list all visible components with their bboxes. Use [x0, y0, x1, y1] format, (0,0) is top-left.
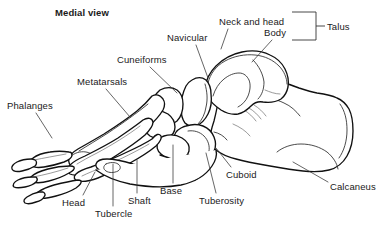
label-base: Base: [160, 185, 182, 196]
foot-skeleton-figure: Medial view Neck and head Body Talus Nav…: [0, 0, 383, 226]
label-navicular: Navicular: [167, 32, 208, 43]
phalanx-3-distal: [24, 192, 45, 204]
leader-phalanges: [36, 113, 52, 138]
phalanx-2-distal: [13, 177, 37, 188]
leader-neck-and-head: [221, 29, 228, 49]
talus-bracket: [292, 12, 325, 40]
leader-metatarsals: [106, 89, 130, 117]
label-tubercle: Tubercle: [95, 208, 132, 219]
label-head: Head: [62, 197, 85, 208]
label-body: Body: [264, 27, 286, 38]
label-calcaneus: Calcaneus: [330, 181, 376, 192]
label-talus: Talus: [327, 21, 350, 32]
label-tuberosity: Tuberosity: [199, 195, 244, 206]
talus-bracket-shape: [292, 12, 316, 40]
phalanx-hallux-distal: [12, 159, 37, 171]
leader-navicular: [196, 45, 208, 78]
label-cuneiforms: Cuneiforms: [117, 54, 167, 65]
label-shaft: Shaft: [128, 195, 151, 206]
label-metatarsals: Metatarsals: [77, 76, 127, 87]
label-phalanges: Phalanges: [7, 100, 53, 111]
figure-title: Medial view: [55, 7, 109, 18]
label-neck-and-head: Neck and head: [219, 16, 284, 27]
label-cuboid: Cuboid: [226, 169, 257, 180]
